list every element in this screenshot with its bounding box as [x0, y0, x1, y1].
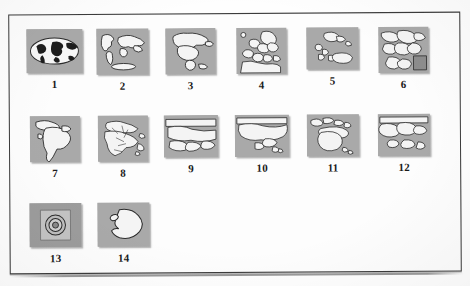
thumbnail-item-8[interactable]: 8	[86, 115, 160, 178]
thumbnail-image-2[interactable]	[96, 29, 148, 75]
thumbnail-item-5[interactable]: 5	[295, 27, 369, 86]
thumbnail-image-1[interactable]	[26, 29, 82, 73]
thumbnail-label-10: 10	[225, 162, 299, 174]
thumbnail-image-11[interactable]	[307, 114, 359, 156]
thumbnail-image-8[interactable]	[98, 116, 148, 162]
thumbnail-label-1: 1	[18, 78, 92, 90]
thumbnail-item-1[interactable]: 1	[17, 29, 91, 90]
thumbnail-item-6[interactable]: 6	[366, 27, 440, 90]
thumbnail-item-14[interactable]: 14	[86, 202, 160, 263]
thumbnail-image-5[interactable]	[306, 27, 358, 69]
thumbnail-item-13[interactable]: 13	[18, 203, 92, 264]
figure-border: 1 2	[8, 12, 462, 275]
thumbnail-label-9: 9	[154, 162, 228, 174]
asia-icon	[235, 115, 289, 157]
thumbnail-image-7[interactable]	[30, 116, 80, 162]
thumbnail-image-13[interactable]	[29, 203, 81, 247]
thumbnail-item-3[interactable]: 3	[153, 28, 227, 91]
eurasia-icon	[164, 115, 218, 157]
thumbnail-label-12: 12	[367, 161, 441, 173]
middle-east-icon	[378, 27, 428, 73]
thumbnail-item-2[interactable]: 2	[85, 28, 159, 91]
polar-circles-icon	[29, 203, 81, 247]
thumbnail-label-13: 13	[19, 252, 93, 264]
thumbnail-item-10[interactable]: 10	[225, 115, 299, 174]
thumbnail-label-11: 11	[296, 161, 370, 173]
thumbnail-label-6: 6	[367, 78, 441, 90]
world-oval-icon	[26, 29, 82, 73]
south-america-icon	[30, 116, 80, 162]
antarctica-icon	[97, 203, 149, 247]
scanned-page: 1 2	[0, 0, 470, 286]
thumbnail-label-8: 8	[86, 166, 160, 178]
thumbnail-item-12[interactable]: 12	[367, 114, 441, 173]
australia-icon	[307, 114, 359, 156]
thumbnail-label-5: 5	[296, 74, 370, 86]
africa-icon	[98, 116, 148, 162]
world-flat-icon	[96, 29, 148, 75]
southeast-asia-icon	[378, 114, 430, 156]
thumbnail-image-10[interactable]	[235, 115, 289, 157]
thumbnail-image-4[interactable]	[236, 28, 286, 74]
thumbnail-label-3: 3	[154, 79, 228, 91]
thumbnail-item-11[interactable]: 11	[296, 114, 370, 173]
europe-icon	[236, 28, 286, 74]
north-america-icon	[165, 28, 215, 74]
caribbean-icon	[306, 27, 358, 69]
thumbnail-label-7: 7	[18, 167, 92, 179]
thumbnail-label-4: 4	[225, 79, 299, 91]
thumbnail-item-9[interactable]: 9	[154, 115, 228, 174]
thumbnail-image-14[interactable]	[97, 203, 149, 247]
thumbnail-label-14: 14	[87, 251, 161, 263]
thumbnail-grid: 1 2	[9, 13, 461, 274]
thumbnail-label-2: 2	[86, 79, 160, 91]
thumbnail-image-6[interactable]	[378, 27, 428, 73]
thumbnail-item-4[interactable]: 4	[224, 28, 298, 91]
thumbnail-item-7[interactable]: 7	[18, 116, 92, 179]
thumbnail-image-3[interactable]	[165, 28, 215, 74]
thumbnail-image-9[interactable]	[164, 115, 218, 157]
thumbnail-image-12[interactable]	[378, 114, 430, 156]
